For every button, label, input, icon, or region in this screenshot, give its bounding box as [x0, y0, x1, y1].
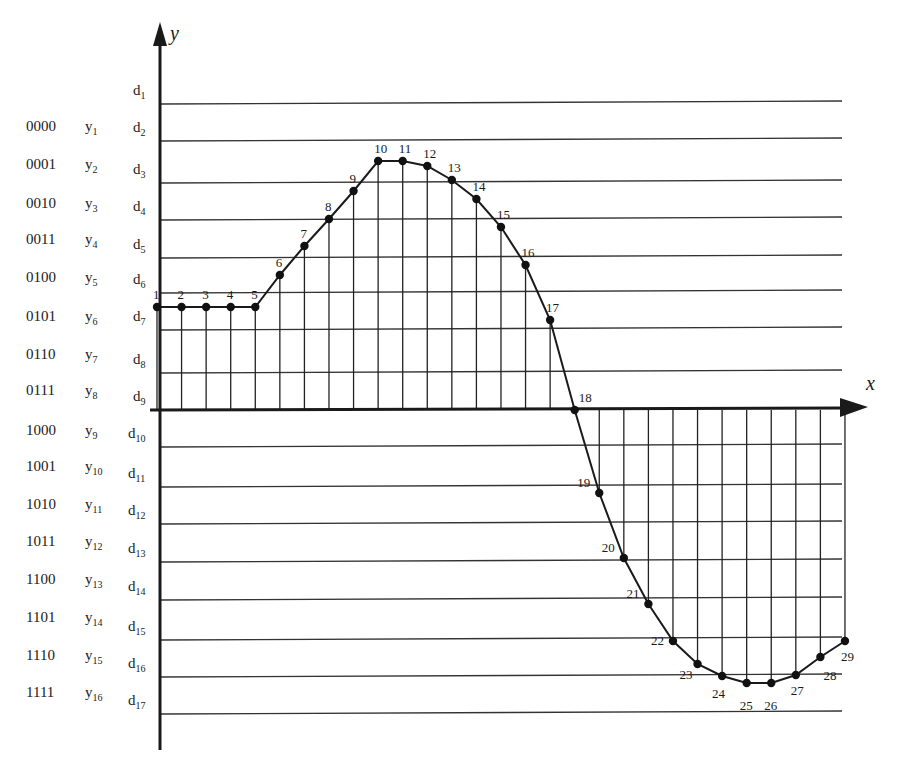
- sample-point: [177, 303, 185, 311]
- decision-level-label: d2: [133, 119, 146, 138]
- sample-point-label: 2: [178, 287, 185, 302]
- quantization-level-label: y2: [85, 156, 98, 175]
- decision-level-label: d9: [133, 388, 146, 407]
- sample-point-label: 4: [227, 287, 234, 302]
- quantization-level-label: y9: [85, 422, 98, 441]
- sample-point: [153, 303, 161, 311]
- binary-code: 1101: [26, 609, 55, 626]
- sample-point: [448, 176, 456, 184]
- sample-point: [325, 215, 333, 223]
- decision-level-label: d10: [128, 425, 146, 444]
- sample-point-label: 21: [626, 586, 639, 601]
- sample-point: [251, 303, 259, 311]
- quantization-level-label: y8: [85, 382, 98, 401]
- quantization-level-label: y5: [85, 269, 98, 288]
- decision-level-label: d5: [133, 236, 146, 255]
- decision-line-d16: [160, 674, 842, 677]
- decision-level-label: d6: [133, 271, 146, 290]
- decision-line-d14: [160, 597, 842, 600]
- decision-level-label: d14: [128, 578, 146, 597]
- quantization-level-label: y11: [85, 496, 102, 515]
- binary-code: 1111: [26, 684, 54, 701]
- sample-point: [497, 223, 505, 231]
- sample-point: [374, 157, 382, 165]
- quantization-level-label: y12: [85, 533, 103, 552]
- sample-point-label: 26: [764, 698, 778, 713]
- decision-line-d12: [160, 521, 842, 524]
- sample-point-label: 3: [202, 287, 209, 302]
- sample-point-label: 11: [399, 141, 412, 156]
- quantization-level-label: y7: [85, 346, 98, 365]
- sample-point: [300, 242, 308, 250]
- binary-code: 1011: [26, 533, 55, 550]
- sample-point: [521, 261, 529, 269]
- quantization-level-label: y3: [85, 195, 98, 214]
- decision-level-label: d16: [128, 655, 146, 674]
- binary-code: 1000: [26, 422, 56, 439]
- sample-point: [546, 316, 554, 324]
- sample-point-label: 15: [497, 207, 510, 222]
- quantization-level-label: y1: [85, 118, 98, 137]
- y-axis-label: y: [168, 22, 179, 45]
- quantization-level-label: y4: [85, 231, 98, 250]
- sample-point-label: 12: [423, 146, 436, 161]
- sample-point: [669, 637, 677, 645]
- sample-point: [202, 303, 210, 311]
- sample-point: [841, 637, 849, 645]
- decision-level-label: d4: [133, 198, 146, 217]
- sample-point-label: 7: [300, 226, 307, 241]
- binary-code: 0010: [26, 195, 56, 212]
- sample-point-label: 17: [546, 300, 560, 315]
- sample-point: [399, 157, 407, 165]
- binary-code: 0011: [26, 231, 55, 248]
- x-axis-arrow-icon: [840, 398, 868, 417]
- binary-code: 1010: [26, 496, 56, 513]
- sample-stems: [157, 161, 845, 683]
- sample-point: [767, 679, 775, 687]
- x-axis-label: x: [865, 372, 875, 394]
- sample-point: [792, 671, 800, 679]
- sample-point-label: 16: [522, 245, 536, 260]
- binary-code: 0101: [26, 308, 56, 325]
- sample-point: [644, 600, 652, 608]
- sample-point: [742, 679, 750, 687]
- sample-point: [595, 489, 603, 497]
- sample-point-label: 8: [325, 199, 332, 214]
- quantization-level-label: y15: [85, 647, 103, 666]
- decision-level-label: d15: [128, 618, 146, 637]
- decision-line-d15: [160, 637, 842, 640]
- sample-point-label: 23: [680, 667, 693, 682]
- sample-point: [620, 554, 628, 562]
- sample-point-label: 14: [472, 179, 486, 194]
- decision-level-label: d8: [133, 351, 146, 370]
- sample-point-label: 25: [740, 698, 753, 713]
- sample-point: [570, 406, 578, 414]
- sample-point: [349, 187, 357, 195]
- decision-level-label: d3: [133, 161, 146, 180]
- sample-point-label: 9: [350, 171, 357, 186]
- decision-line-d13: [160, 559, 842, 562]
- sample-point-label: 24: [712, 686, 726, 701]
- sample-point: [423, 162, 431, 170]
- axes: y x: [150, 22, 875, 750]
- quantization-level-label: y10: [85, 458, 103, 477]
- binary-code: 0000: [26, 118, 56, 135]
- quantization-level-label: y13: [85, 571, 103, 590]
- sample-point-label: 6: [276, 255, 283, 270]
- sample-point-label: 27: [791, 683, 805, 698]
- decision-level-label: d12: [128, 502, 146, 521]
- binary-code: 0111: [26, 382, 55, 399]
- decision-line-d1: [160, 101, 842, 104]
- sample-point-label: 28: [823, 668, 836, 683]
- sample-point-label: 20: [602, 540, 615, 555]
- quantization-level-label: y14: [85, 609, 103, 628]
- decision-level-label: d17: [128, 692, 146, 711]
- decision-line-d10: [160, 444, 842, 447]
- sample-point-label: 5: [251, 287, 258, 302]
- sample-point-label: 19: [577, 475, 590, 490]
- sample-point: [718, 672, 726, 680]
- binary-code: 1001: [26, 458, 56, 475]
- sample-point: [227, 303, 235, 311]
- sample-point: [276, 271, 284, 279]
- sample-point: [693, 660, 701, 668]
